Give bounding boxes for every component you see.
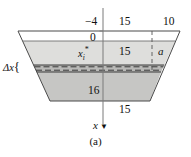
delta-x-text: Δx: [3, 62, 14, 73]
x-axis-arrow-icon: ▼: [98, 122, 108, 131]
label-minus-four: −4: [85, 16, 97, 27]
label-fifteen-bottom: 15: [119, 104, 131, 115]
top-band-region: [18, 31, 180, 41]
label-sixteen: 16: [88, 85, 100, 96]
middle-band-region: [23, 41, 176, 65]
label-a: a: [158, 46, 164, 57]
label-delta-x: Δx{: [3, 61, 20, 73]
label-ten: 10: [163, 16, 175, 27]
label-fifteen-top: 15: [119, 16, 131, 27]
label-x-sample-point: xi*: [78, 44, 89, 63]
delta-x-strip-region: [34, 65, 165, 72]
figure-caption: (a): [0, 136, 191, 147]
delta-x-brace: {: [14, 59, 20, 74]
x-sample-superscript: *: [85, 45, 89, 54]
label-x-axis: x▼: [93, 120, 108, 132]
figure-container: −4 0 15 10 15 a 16 15 Δx{ xi* x▼ (a): [0, 0, 191, 157]
label-zero: 0: [90, 32, 96, 43]
label-fifteen-middle: 15: [119, 46, 131, 57]
